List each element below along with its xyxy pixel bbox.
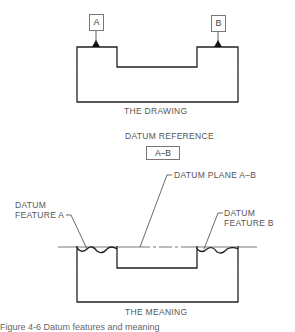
- part-outline-meaning: [77, 247, 238, 302]
- datum-a-triangle: [92, 40, 100, 47]
- datum-plane-leader: [140, 175, 172, 247]
- datum-reference-title: DATUM REFERENCE: [125, 131, 214, 141]
- part-outline-drawing: [77, 47, 238, 102]
- datum-feature-a-label: DATUM FEATURE A: [15, 200, 64, 220]
- feature-a-line2: FEATURE A: [15, 210, 64, 220]
- datum-reference-frame: A–B: [146, 146, 180, 160]
- feature-b-leader: [204, 213, 223, 249]
- feature-a-leader: [66, 215, 87, 249]
- datum-b-triangle: [214, 40, 222, 47]
- drawing-title: THE DRAWING: [124, 106, 187, 116]
- meaning-title: THE MEANING: [125, 307, 187, 317]
- datum-plane-label: DATUM PLANE A–B: [174, 170, 256, 180]
- feature-b-line1: DATUM: [224, 208, 274, 218]
- figure-caption: Figure 4-6 Datum features and meaning: [0, 322, 160, 332]
- feature-b-line2: FEATURE B: [224, 218, 274, 228]
- feature-a-line1: DATUM: [15, 200, 64, 210]
- diagram-canvas: [0, 0, 295, 332]
- datum-a-frame: A: [89, 14, 104, 31]
- datum-feature-b-label: DATUM FEATURE B: [224, 208, 274, 228]
- datum-b-frame: B: [211, 15, 226, 32]
